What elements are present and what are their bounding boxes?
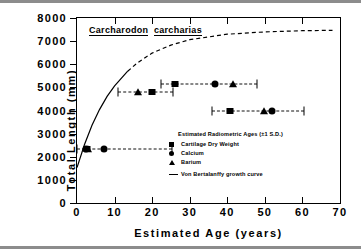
x-tick-mark-top (152, 18, 153, 24)
data-point-square[interactable] (227, 108, 234, 114)
y-tick-mark (70, 111, 77, 112)
data-point-triangle[interactable] (84, 145, 92, 152)
legend-item-cartilage-dry-weight: Cartilage Dry Weight (169, 140, 283, 149)
legend-label: Barium (181, 160, 201, 166)
data-point-triangle[interactable] (134, 88, 142, 95)
plot-area: Carcharodon carcharias Estimated Radiome… (76, 17, 341, 204)
growth-curve-dashed (128, 30, 333, 71)
legend-label: Calcium (181, 151, 204, 157)
data-point-square[interactable] (171, 81, 178, 87)
circle-marker-icon (169, 151, 181, 156)
x-tick-label: 50 (257, 206, 272, 218)
error-bar-cap (303, 106, 304, 115)
y-tick-mark (70, 18, 77, 19)
data-point-circle[interactable] (101, 145, 108, 152)
error-bar-cap (173, 88, 174, 97)
y-tick-label: 5000 (37, 81, 67, 93)
y-tick-label: 7000 (37, 35, 67, 47)
legend-label: Cartilage Dry Weight (181, 142, 239, 148)
y-tick-label: 4000 (37, 105, 67, 117)
data-point-circle[interactable] (268, 107, 275, 114)
y-tick-label: 8000 (37, 12, 67, 24)
error-bar-cap (161, 79, 162, 88)
x-tick-label: 40 (220, 206, 235, 218)
line-marker-icon (169, 174, 181, 175)
x-axis-tick-labels: 010203040506070 (76, 206, 341, 222)
legend-title: Estimated Radiometric Ages (±1 S.D.) (178, 132, 283, 138)
x-tick-label: 10 (107, 206, 122, 218)
figure-canvas: Total Length (mm) 0100020003000400050006… (0, 0, 361, 249)
y-tick-mark (70, 203, 77, 204)
species-word: carcharias (154, 25, 202, 36)
y-tick-mark (70, 157, 77, 158)
x-tick-label: 70 (333, 206, 348, 218)
x-tick-mark (265, 197, 266, 203)
x-tick-mark-top (302, 18, 303, 24)
data-point-square[interactable] (149, 89, 156, 95)
x-axis-title: Estimated Age (years) (76, 227, 341, 239)
y-tick-mark (70, 180, 77, 181)
y-tick-mark (70, 41, 77, 42)
x-tick-mark (227, 197, 228, 203)
data-point-triangle[interactable] (260, 107, 268, 114)
legend-label: Von Bertalanffy growth curve (181, 172, 263, 178)
legend-item-calcium: Calcium (169, 149, 283, 158)
error-bar-cap (77, 144, 78, 153)
legend-item-barium: Barium (169, 158, 283, 167)
x-tick-mark (190, 197, 191, 203)
x-tick-mark (302, 197, 303, 203)
error-bar-cap (117, 88, 118, 97)
x-tick-label: 30 (182, 206, 197, 218)
triangle-marker-icon (169, 160, 181, 165)
y-tick-label: 6000 (37, 58, 67, 70)
legend-title-row: Estimated Radiometric Ages (±1 S.D.) (169, 130, 283, 140)
top-border-bar (0, 0, 361, 3)
x-tick-mark-top (265, 18, 266, 24)
x-tick-mark-top (227, 18, 228, 24)
x-tick-label: 20 (145, 206, 160, 218)
y-tick-label: 2000 (37, 151, 67, 163)
species-name-label: Carcharodon carcharias (89, 25, 202, 35)
legend-item-growth-curve: Von Bertalanffy growth curve (169, 170, 283, 179)
y-tick-label: 0 (60, 197, 67, 209)
x-tick-mark-top (115, 18, 116, 24)
growth-curve-solid (77, 71, 128, 167)
square-marker-icon (169, 142, 181, 147)
data-point-triangle[interactable] (229, 80, 237, 87)
species-word: Carcharodon (89, 25, 148, 36)
y-axis-tick-labels: 010002000300040005000600070008000 (0, 17, 76, 204)
error-bar-line (118, 92, 174, 93)
error-bar-cap (212, 106, 213, 115)
y-tick-mark (70, 64, 77, 65)
x-tick-mark (152, 197, 153, 203)
y-tick-mark (70, 134, 77, 135)
chart-legend: Estimated Radiometric Ages (±1 S.D.) Car… (169, 130, 283, 179)
x-tick-label: 0 (73, 206, 80, 218)
error-bar-cap (257, 79, 258, 88)
y-tick-mark (70, 87, 77, 88)
data-point-circle[interactable] (211, 80, 218, 87)
y-tick-label: 1000 (37, 174, 67, 186)
x-tick-mark (115, 197, 116, 203)
x-tick-label: 60 (295, 206, 310, 218)
x-tick-mark-top (190, 18, 191, 24)
y-tick-label: 3000 (37, 128, 67, 140)
